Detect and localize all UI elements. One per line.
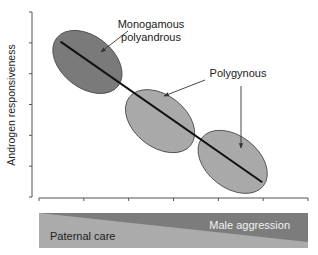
arrow-polygynous-left bbox=[164, 80, 205, 96]
trend-line bbox=[61, 42, 263, 183]
label-monogamous-line1: Monogamous bbox=[118, 18, 185, 30]
label-polygynous: Polygynous bbox=[210, 67, 267, 79]
group-ellipse-2 bbox=[113, 77, 206, 166]
gradient-bar: Male aggression Paternal care bbox=[39, 213, 308, 248]
label-monogamous-line2: polyandrous bbox=[121, 31, 181, 43]
figure: Androgen responsiveness Monogamous polya… bbox=[0, 0, 318, 255]
label-male-aggression: Male aggression bbox=[209, 219, 290, 231]
label-paternal-care: Paternal care bbox=[50, 230, 115, 242]
y-axis-label: Androgen responsiveness bbox=[5, 44, 17, 165]
